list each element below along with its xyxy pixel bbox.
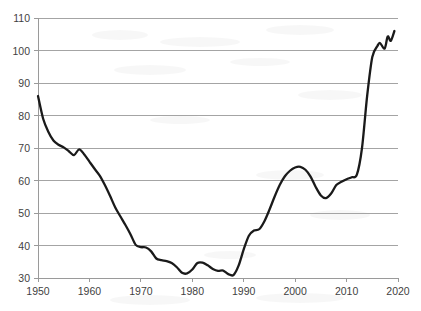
x-tickmarks bbox=[38, 278, 398, 282]
data-series-line bbox=[38, 31, 394, 276]
line-chart: 110 100 90 80 70 60 50 40 30 1950 1960 1… bbox=[0, 0, 421, 311]
y-tick-label: 80 bbox=[18, 110, 30, 122]
y-tick-label: 30 bbox=[18, 272, 30, 284]
x-tick-label: 1970 bbox=[129, 285, 153, 297]
x-tick-label: 1960 bbox=[78, 285, 102, 297]
x-tick-label: 2000 bbox=[283, 285, 307, 297]
x-tick-label: 1950 bbox=[26, 285, 50, 297]
y-tick-labels: 110 100 90 80 70 60 50 40 30 bbox=[12, 12, 30, 284]
x-tick-label: 1980 bbox=[181, 285, 205, 297]
x-tick-label: 2020 bbox=[386, 285, 410, 297]
y-tick-label: 90 bbox=[18, 77, 30, 89]
x-tick-label: 1990 bbox=[232, 285, 256, 297]
y-tick-label: 100 bbox=[12, 45, 30, 57]
scan-noise-artifacts bbox=[92, 25, 370, 305]
x-tick-labels: 1950 1960 1970 1980 1990 2000 2010 2020 bbox=[26, 285, 410, 297]
y-tick-label: 40 bbox=[18, 240, 30, 252]
y-tick-label: 50 bbox=[18, 207, 30, 219]
y-tick-label: 70 bbox=[18, 142, 30, 154]
x-tick-label: 2010 bbox=[335, 285, 359, 297]
chart-container: 110 100 90 80 70 60 50 40 30 1950 1960 1… bbox=[0, 0, 421, 311]
y-tickmarks bbox=[34, 18, 38, 278]
y-tick-label: 60 bbox=[18, 175, 30, 187]
y-tick-label: 110 bbox=[13, 12, 30, 24]
